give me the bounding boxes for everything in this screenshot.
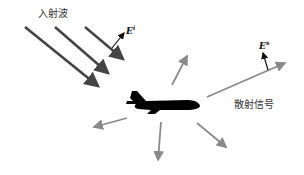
radar-scattering-diagram: 入射波 Ei Es 散射信号 (0, 0, 304, 175)
incident-arrow-2 (55, 27, 108, 73)
incident-field-superscript: i (133, 24, 135, 31)
aircraft-icon (126, 91, 200, 114)
scattered-arrow-down-right (197, 123, 226, 147)
scattered-arrow-right (207, 63, 285, 97)
scattered-arrow-down (158, 122, 161, 160)
scattered-field-symbol: E (259, 41, 266, 51)
incident-field-symbol: E (126, 26, 133, 36)
diagram-svg (0, 0, 304, 175)
scattered-arrow-left (94, 118, 127, 127)
scattered-signal-label: 散射信号 (234, 96, 274, 111)
scattered-field-superscript: s (266, 39, 269, 46)
incident-field-vector (112, 33, 124, 48)
scattered-field-label: Es (259, 39, 269, 51)
scattered-field-vector (263, 53, 268, 70)
incident-field-label: Ei (126, 24, 135, 36)
incident-wave-label: 入射波 (38, 5, 68, 20)
incident-wave-arrows (25, 27, 123, 86)
scattered-arrow-up (172, 56, 187, 85)
incident-arrow-3 (85, 27, 123, 59)
